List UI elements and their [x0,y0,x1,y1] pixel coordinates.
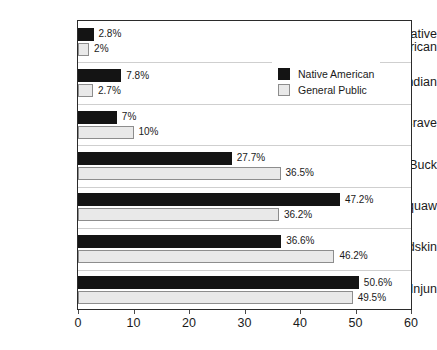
bar-value-label: 2% [94,44,108,54]
bar-general-public [78,167,281,180]
bar-chart: NativeAmericanIndianBraveBuckSquawRedski… [0,0,437,350]
chart-category-row: 27.7%36.5% [78,145,411,186]
bar-value-label: 47.2% [345,195,373,205]
x-axis-tick-mark [189,310,190,314]
bar-native-american [78,276,359,289]
bar-native-american [78,111,117,124]
legend-item: General Public [278,82,374,97]
x-axis: 0102030405060 [77,310,412,340]
x-axis-tick-mark [300,310,301,314]
bar-general-public [78,126,134,139]
x-axis-tick-label: 20 [182,316,196,330]
bar-native-american [78,28,94,41]
legend-label: Native American [298,68,374,80]
chart-category-row: 47.2%36.2% [78,187,411,228]
bar-general-public [78,208,279,221]
x-axis-tick-mark [245,310,246,314]
legend-swatch-general [278,84,290,96]
x-axis-tick-mark [134,310,135,314]
chart-category-row: 36.6%46.2% [78,228,411,269]
bar-general-public [78,43,89,56]
x-axis-tick-label: 30 [238,316,252,330]
bar-value-label: 36.5% [286,168,314,178]
bar-value-label: 36.2% [284,210,312,220]
legend-item: Native American [278,66,374,81]
bar-value-label: 50.6% [364,278,392,288]
bar-native-american [78,152,232,165]
x-axis-tick-label: 10 [127,316,141,330]
bar-value-label: 2.7% [98,86,121,96]
x-axis-tick-mark [356,310,357,314]
bar-general-public [78,84,93,97]
bar-general-public [78,250,334,263]
x-axis-tick-mark [411,310,412,314]
x-axis-tick-mark [78,310,79,314]
bar-value-label: 49.5% [358,293,386,303]
bar-value-label: 2.8% [99,29,122,39]
x-axis-tick-label: 0 [75,316,82,330]
bar-value-label: 7.8% [126,71,149,81]
chart-category-row: 2.8%2% [78,21,411,62]
bar-value-label: 46.2% [339,251,367,261]
bar-value-label: 36.6% [286,236,314,246]
chart-legend: Native AmericanGeneral Public [272,61,380,102]
chart-category-row: 50.6%49.5% [78,270,411,311]
bar-value-label: 27.7% [237,153,265,163]
x-axis-tick-label: 60 [404,316,418,330]
bar-native-american [78,235,281,248]
x-axis-tick-label: 40 [293,316,307,330]
bar-native-american [78,69,121,82]
bar-value-label: 7% [122,112,136,122]
legend-swatch-native [278,68,290,80]
legend-label: General Public [298,84,367,96]
x-axis-tick-label: 50 [349,316,363,330]
bar-native-american [78,193,340,206]
chart-category-row: 7%10% [78,104,411,145]
bar-value-label: 10% [139,127,159,137]
bar-general-public [78,291,353,304]
